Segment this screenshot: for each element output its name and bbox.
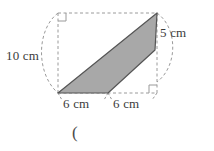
top-left-right-angle-icon: [58, 13, 66, 21]
bottom-right-right-angle-icon: [149, 85, 157, 93]
geometry-canvas: [0, 0, 214, 151]
geometry-figure: 10 cm 5 cm 6 cm 6 cm (: [0, 0, 214, 151]
shaded-quadrilateral: [58, 13, 157, 93]
dashed-tick-middle-left: [104, 93, 108, 100]
right-height-label: 5 cm: [160, 26, 186, 39]
bottom-left-base-label: 6 cm: [63, 97, 89, 110]
stray-parenthesis-text: (: [72, 124, 78, 141]
dashed-right-arc: [157, 13, 173, 82]
dashed-tick-right: [152, 93, 157, 100]
bottom-right-base-label: 6 cm: [113, 97, 139, 110]
dashed-left-arc: [42, 13, 59, 93]
dashed-tick-left: [58, 93, 62, 100]
left-height-label: 10 cm: [6, 49, 39, 62]
dashed-tick-middle-right: [108, 93, 112, 100]
